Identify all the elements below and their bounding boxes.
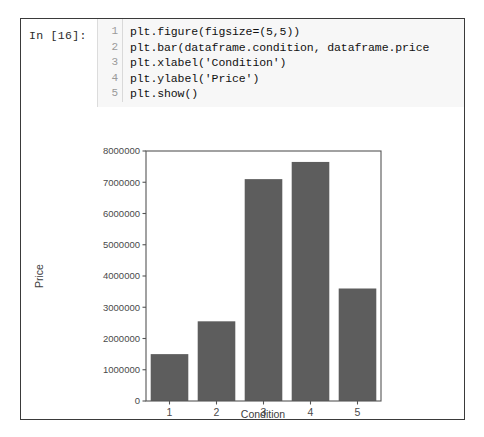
y-tick-label: 1000000 <box>103 364 140 375</box>
y-tick-label: 5000000 <box>103 239 140 250</box>
code-text[interactable]: plt.figure(figsize=(5,5)) plt.bar(datafr… <box>123 19 464 102</box>
y-tick-label: 7000000 <box>103 177 140 188</box>
y-tick-label: 0 <box>135 395 140 406</box>
y-tick-label: 8000000 <box>103 145 140 156</box>
line-number-gutter: 1 2 3 4 5 <box>98 19 123 102</box>
y-tick-label: 3000000 <box>103 302 140 313</box>
code-line: plt.ylabel('Price') <box>130 71 464 87</box>
execution-count-prompt: In [16]: <box>21 19 97 42</box>
y-axis-ticks: 0100000020000003000000400000050000006000… <box>103 145 146 406</box>
line-number: 4 <box>98 71 118 87</box>
y-tick-label: 2000000 <box>103 333 140 344</box>
x-tick-label: 2 <box>214 406 220 418</box>
notebook-input-row: In [16]: 1 2 3 4 5 plt.figure(figsize=(5… <box>21 19 464 107</box>
bar <box>151 354 189 401</box>
bar <box>198 321 236 401</box>
code-line: plt.figure(figsize=(5,5)) <box>130 24 464 40</box>
y-tick-label: 4000000 <box>103 270 140 281</box>
line-number: 1 <box>98 24 118 40</box>
notebook-cell: In [16]: 1 2 3 4 5 plt.figure(figsize=(5… <box>20 18 465 420</box>
line-number: 5 <box>98 86 118 102</box>
y-tick-label: 6000000 <box>103 208 140 219</box>
x-tick-label: 4 <box>308 406 314 418</box>
bar-series <box>151 162 377 401</box>
x-tick-label: 5 <box>355 406 361 418</box>
bar <box>339 289 377 402</box>
code-line: plt.show() <box>130 86 464 102</box>
y-axis-label: Price <box>33 264 45 288</box>
x-tick-label: 1 <box>167 406 173 418</box>
code-line: plt.bar(dataframe.condition, dataframe.p… <box>130 40 464 56</box>
line-number: 2 <box>98 40 118 56</box>
bar <box>292 162 330 401</box>
code-editor[interactable]: 1 2 3 4 5 plt.figure(figsize=(5,5)) plt.… <box>97 19 464 107</box>
line-number: 3 <box>98 55 118 71</box>
cell-output-chart: 0100000020000003000000400000050000006000… <box>21 107 464 420</box>
bar <box>245 179 283 401</box>
code-line: plt.xlabel('Condition') <box>130 55 464 71</box>
x-axis-label: Condition <box>241 408 286 420</box>
bar-chart: 0100000020000003000000400000050000006000… <box>21 107 465 420</box>
